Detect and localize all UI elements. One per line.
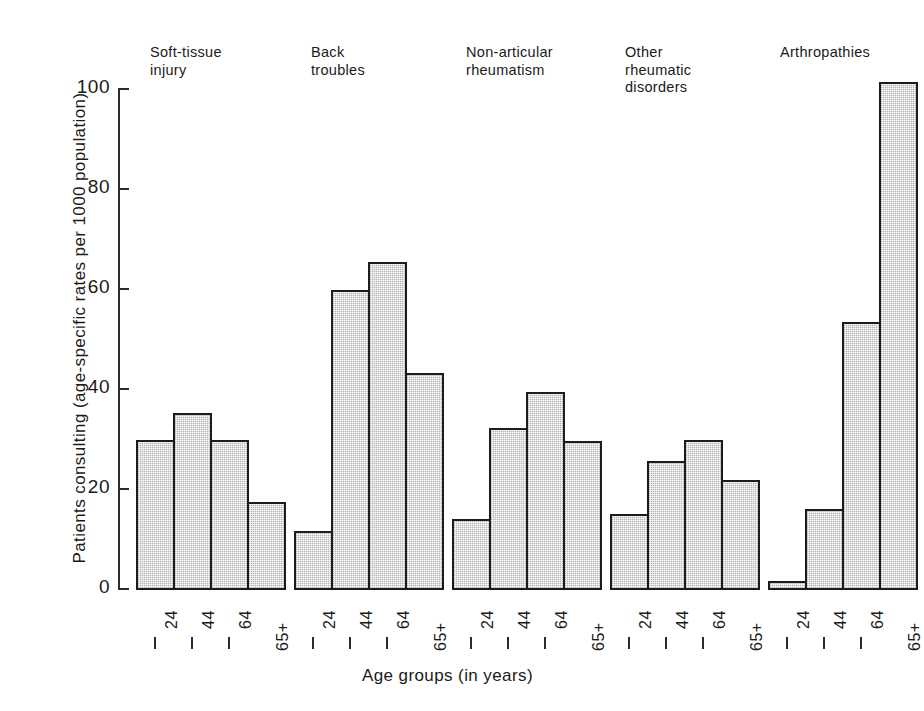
bar <box>768 581 807 590</box>
bar <box>331 290 370 590</box>
y-tick-label: 80 <box>50 176 110 198</box>
x-tick-label: 24 <box>795 610 813 629</box>
y-tick-label: 40 <box>50 376 110 398</box>
x-tick-mark <box>665 637 667 649</box>
y-tick-label: 60 <box>50 276 110 298</box>
y-tick-mark <box>118 188 129 190</box>
x-tick-mark <box>860 637 862 649</box>
x-tick-label: 64 <box>711 610 729 629</box>
x-tick-label: 44 <box>516 610 534 629</box>
x-tick-label: 24 <box>479 610 497 629</box>
group-title: Arthropathies <box>780 44 870 62</box>
y-tick-label: 20 <box>50 476 110 498</box>
bar <box>563 441 602 591</box>
x-tick-mark <box>154 637 156 649</box>
bar <box>879 82 918 591</box>
x-tick-label: 24 <box>321 610 339 629</box>
x-tick-label: 64 <box>395 610 413 629</box>
x-tick-mark <box>349 637 351 649</box>
x-tick-label: 44 <box>674 610 692 629</box>
x-tick-mark <box>702 637 704 649</box>
x-tick-mark <box>544 637 546 649</box>
bar <box>173 413 212 590</box>
group-title: Back troubles <box>311 44 365 79</box>
y-tick-mark <box>118 88 129 90</box>
x-tick-mark <box>823 637 825 649</box>
x-tick-mark <box>470 637 472 649</box>
x-tick-mark <box>191 637 193 649</box>
y-tick-mark <box>118 588 129 590</box>
x-tick-label: 65+ <box>590 622 608 651</box>
bar <box>136 440 175 590</box>
x-tick-label: 44 <box>200 610 218 629</box>
x-axis-title: Age groups (in years) <box>0 666 895 686</box>
bar <box>805 509 844 590</box>
bar <box>842 322 881 590</box>
group-title: Other rheumatic disorders <box>625 44 691 97</box>
x-tick-mark <box>312 637 314 649</box>
bar <box>405 373 444 590</box>
x-tick-label: 24 <box>163 610 181 629</box>
x-tick-label: 65+ <box>274 622 292 651</box>
group-title: Soft-tissue injury <box>150 44 222 79</box>
bar <box>684 440 723 591</box>
x-tick-label: 24 <box>637 610 655 629</box>
bar <box>294 531 333 591</box>
bar <box>368 262 407 591</box>
x-tick-mark <box>628 637 630 649</box>
bar <box>647 461 686 590</box>
x-tick-label: 44 <box>832 610 850 629</box>
y-tick-mark <box>118 288 129 290</box>
y-tick-label: 100 <box>50 76 110 98</box>
bar <box>610 514 649 590</box>
bar <box>247 502 286 590</box>
bar <box>210 440 249 590</box>
x-tick-label: 64 <box>553 610 571 629</box>
x-tick-label: 65+ <box>906 622 924 651</box>
x-tick-label: 64 <box>869 610 887 629</box>
bar <box>721 480 760 590</box>
y-tick-mark <box>118 488 129 490</box>
bar <box>526 392 565 591</box>
x-tick-label: 65+ <box>432 622 450 651</box>
bar <box>489 428 528 591</box>
y-tick-label: 0 <box>50 576 110 598</box>
x-tick-mark <box>786 637 788 649</box>
x-tick-label: 64 <box>237 610 255 629</box>
y-tick-mark <box>118 388 129 390</box>
x-tick-mark <box>507 637 509 649</box>
x-tick-mark <box>228 637 230 649</box>
x-tick-mark <box>386 637 388 649</box>
x-tick-label: 65+ <box>748 622 766 651</box>
x-tick-label: 44 <box>358 610 376 629</box>
bar <box>452 519 491 590</box>
y-axis-line <box>118 88 120 590</box>
group-title: Non-articular rheumatism <box>466 44 553 79</box>
y-axis-title: Patients consulting (age-specific rates … <box>70 48 90 608</box>
